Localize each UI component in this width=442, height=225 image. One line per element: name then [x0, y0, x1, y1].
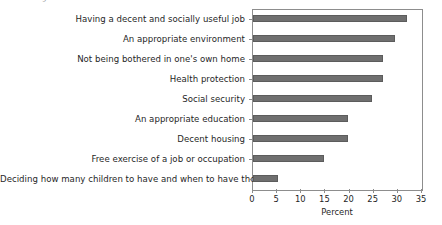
x-axis-tick	[421, 189, 422, 193]
bar-track	[253, 89, 422, 109]
bar-track	[253, 49, 422, 69]
bar-track	[253, 9, 422, 29]
chart-row: Social security	[0, 89, 442, 109]
bar	[253, 75, 383, 82]
chart-rows: Having a decent and socially useful jobA…	[0, 9, 442, 189]
x-axis-tick	[349, 189, 350, 193]
category-label: Social security	[0, 94, 249, 104]
category-label: Deciding how many children to have and w…	[0, 174, 249, 184]
category-label: Free exercise of a job or occupation	[0, 154, 249, 164]
bar	[253, 95, 372, 102]
x-axis-tick	[300, 189, 301, 193]
category-label: Having a decent and socially useful job	[0, 14, 249, 24]
bar-track	[253, 109, 422, 129]
bar-track	[253, 149, 422, 169]
x-axis-tick	[252, 189, 253, 193]
bar-track	[253, 69, 422, 89]
bar	[253, 35, 395, 42]
chart-row: Deciding how many children to have and w…	[0, 169, 442, 189]
x-axis-tick	[324, 189, 325, 193]
x-axis: Percent 05101520253035	[252, 189, 422, 225]
x-axis-tick-label: 35	[406, 194, 436, 204]
x-axis-tick	[276, 189, 277, 193]
x-axis-tick	[397, 189, 398, 193]
bar-track	[253, 129, 422, 149]
chart-row: Having a decent and socially useful job	[0, 9, 442, 29]
chart-row: Not being bothered in one's own home	[0, 49, 442, 69]
bar	[253, 115, 348, 122]
chart-row: Free exercise of a job or occupation	[0, 149, 442, 169]
bar	[253, 155, 324, 162]
bar-track	[253, 169, 422, 189]
x-axis-tick	[373, 189, 374, 193]
category-label: An appropriate environment	[0, 34, 249, 44]
chart-row: Decent housing	[0, 129, 442, 149]
chart-row: An appropriate education	[0, 109, 442, 129]
bar	[253, 15, 407, 22]
bar	[253, 135, 348, 142]
category-label: An appropriate education	[0, 114, 249, 124]
horizontal-bar-chart: Having a decent and socially useful jobA…	[0, 0, 442, 225]
bar	[253, 175, 278, 182]
category-label: Health protection	[0, 74, 249, 84]
chart-row: Health protection	[0, 69, 442, 89]
chart-row: An appropriate environment	[0, 29, 442, 49]
category-label: Not being bothered in one's own home	[0, 54, 249, 64]
bar	[253, 55, 383, 62]
bar-track	[253, 29, 422, 49]
category-label: Decent housing	[0, 134, 249, 144]
x-axis-title: Percent	[252, 207, 422, 217]
